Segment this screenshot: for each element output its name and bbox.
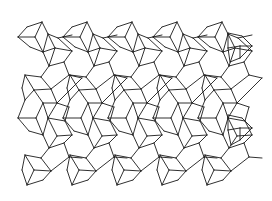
rhombus-edge bbox=[231, 89, 237, 103]
rhombus-edge bbox=[138, 118, 147, 136]
rhombus-edge bbox=[25, 155, 34, 170]
rhombus-edge bbox=[74, 131, 88, 135]
rhombus-edge bbox=[22, 155, 25, 170]
cube-tessellation-figure bbox=[0, 0, 272, 201]
rhombus-edge bbox=[132, 22, 138, 34]
rhombus-edge bbox=[133, 48, 145, 52]
rhombus-edge bbox=[57, 91, 69, 103]
rhombus-edge bbox=[223, 118, 228, 135]
rhombus-edge bbox=[176, 158, 186, 171]
tessellation-pattern bbox=[18, 22, 262, 185]
rhombus-edge bbox=[178, 48, 190, 52]
rhombus-edge bbox=[88, 135, 94, 148]
rhombus-edge bbox=[93, 118, 102, 136]
rhombus-edge bbox=[221, 158, 231, 171]
rhombus-edge bbox=[93, 103, 102, 118]
rhombus-edge bbox=[126, 118, 133, 135]
rhombus-edge bbox=[214, 170, 231, 171]
rhombus-edge bbox=[63, 37, 75, 47]
rhombus-edge bbox=[154, 143, 159, 157]
rhombus-edge bbox=[214, 89, 231, 90]
rhombus-edge bbox=[192, 135, 207, 136]
rhombus-edge bbox=[229, 62, 244, 66]
rhombus-edge bbox=[43, 118, 48, 135]
rhombus-edge bbox=[49, 143, 64, 148]
cube-edge bbox=[240, 128, 252, 140]
rhombus-edge bbox=[109, 51, 117, 62]
cube-edge bbox=[228, 130, 231, 145]
rhombus-edge bbox=[124, 89, 141, 90]
rhombus-edge bbox=[48, 118, 57, 136]
rhombus-edge bbox=[184, 62, 199, 66]
rhombus-edge bbox=[41, 77, 51, 89]
rhombus-edge bbox=[155, 107, 159, 121]
rhombus-edge bbox=[64, 143, 69, 157]
rhombus-edge bbox=[141, 157, 159, 171]
rhombus-edge bbox=[139, 48, 145, 66]
rhombus-edge bbox=[222, 22, 228, 34]
rhombus-edge bbox=[41, 66, 49, 77]
rhombus-edge bbox=[22, 170, 27, 185]
rhombus-edge bbox=[86, 148, 94, 158]
rhombus-edge bbox=[18, 27, 27, 37]
rhombus-edge bbox=[25, 90, 34, 100]
rhombus-edge bbox=[249, 78, 262, 91]
rhombus-edge bbox=[221, 148, 229, 158]
rhombus-edge bbox=[88, 118, 93, 135]
rhombus-edge bbox=[186, 75, 204, 89]
rhombus-edge bbox=[198, 118, 209, 131]
rhombus-edge bbox=[141, 75, 159, 89]
rhombus-edge bbox=[231, 157, 249, 171]
rhombus-edge bbox=[43, 103, 48, 118]
rhombus-edge bbox=[63, 118, 74, 131]
cube-edge bbox=[242, 118, 252, 128]
rhombus-edge bbox=[178, 171, 186, 180]
rhombus-edge bbox=[147, 135, 162, 136]
rhombus-edge bbox=[154, 62, 159, 75]
rhombus-edge bbox=[86, 158, 96, 171]
rhombus-edge bbox=[139, 143, 154, 148]
rhombus-edge bbox=[133, 52, 139, 66]
rhombus-edge bbox=[65, 107, 69, 121]
rhombus-edge bbox=[153, 118, 164, 131]
rhombus-edge bbox=[49, 62, 64, 66]
rhombus-edge bbox=[192, 91, 204, 103]
rhombus-edge bbox=[88, 48, 100, 52]
rhombus-edge bbox=[138, 118, 155, 121]
rhombus-edge bbox=[176, 148, 184, 158]
rhombus-edge bbox=[223, 171, 231, 180]
rhombus-edge bbox=[221, 66, 229, 77]
rhombus-edge bbox=[169, 90, 178, 103]
rhombus-edge bbox=[112, 75, 115, 88]
rhombus-edge bbox=[229, 143, 244, 148]
rhombus-edge bbox=[157, 88, 160, 100]
rhombus-edge bbox=[133, 171, 141, 180]
rhombus-edge bbox=[184, 48, 190, 66]
cube-edge bbox=[228, 115, 242, 118]
rhombus-edge bbox=[18, 100, 25, 118]
rhombus-edge bbox=[102, 91, 114, 103]
rhombus-edge bbox=[64, 51, 72, 62]
rhombus-edge bbox=[67, 75, 70, 88]
rhombus-edge bbox=[22, 75, 25, 88]
rhombus-edge bbox=[51, 157, 69, 171]
rhombus-edge bbox=[245, 107, 249, 121]
rhombus-edge bbox=[223, 135, 229, 148]
rhombus-edge bbox=[43, 52, 49, 66]
rhombus-edge bbox=[153, 37, 165, 47]
rhombus-edge bbox=[178, 52, 184, 66]
rhombus-edge bbox=[67, 88, 70, 100]
rhombus-edge bbox=[112, 88, 115, 100]
rhombus-edge bbox=[88, 34, 93, 52]
cube-edge bbox=[242, 36, 252, 46]
rhombus-edge bbox=[228, 118, 237, 136]
rhombus-edge bbox=[138, 103, 147, 118]
rhombus-edge bbox=[221, 77, 231, 89]
rhombus-edge bbox=[86, 77, 96, 89]
rhombus-edge bbox=[202, 88, 205, 100]
rhombus-edge bbox=[131, 66, 139, 77]
rhombus-edge bbox=[178, 34, 183, 52]
rhombus-edge bbox=[229, 48, 235, 66]
rhombus-edge bbox=[109, 135, 117, 143]
rhombus-edge bbox=[249, 157, 262, 158]
